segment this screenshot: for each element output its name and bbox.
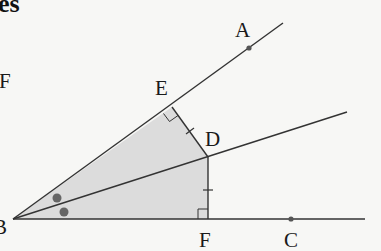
shaded-region-bedf xyxy=(13,107,208,219)
label-a: A xyxy=(235,18,251,42)
angle-marker-upper xyxy=(53,194,62,203)
label-b: B xyxy=(0,215,7,239)
angle-marker-lower xyxy=(60,208,69,217)
geometry-diagram: es F E A D F C B xyxy=(0,0,381,251)
label-e: E xyxy=(155,76,168,100)
point-c xyxy=(288,216,293,221)
side-label-f: F xyxy=(0,69,11,93)
point-a xyxy=(246,45,251,50)
heading-fragment: es xyxy=(0,0,20,18)
label-f: F xyxy=(199,228,211,251)
label-c: C xyxy=(284,228,298,251)
label-d: D xyxy=(205,127,220,151)
